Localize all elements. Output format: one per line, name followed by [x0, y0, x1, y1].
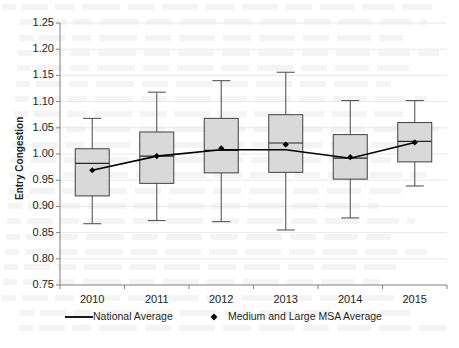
- legend-label-msa-average: Medium and Large MSA Average: [228, 310, 382, 322]
- plot-area: [0, 0, 459, 348]
- legend-diamond-swatch: [208, 311, 220, 323]
- chart-figure: Entry Congestion 1.251.201.151.101.051.0…: [0, 0, 459, 348]
- legend-line-swatch: [65, 311, 93, 323]
- legend-label-national-average: National Average: [93, 310, 173, 322]
